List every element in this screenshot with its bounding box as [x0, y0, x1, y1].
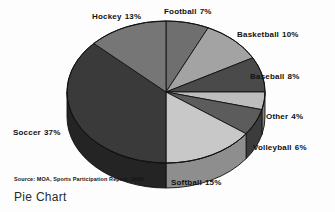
slice-label-football: Football7%	[164, 7, 212, 17]
slice-label-basketball-name: Basketball	[237, 30, 279, 39]
slice-label-softball: Softball15%	[171, 178, 222, 188]
slice-label-football-name: Football	[164, 7, 197, 16]
slice-label-basketball: Basketball10%	[237, 30, 299, 40]
slice-label-volleyball: Volleyball6%	[253, 143, 307, 153]
pie-top-slices	[67, 21, 265, 163]
figure-caption: Pie Chart	[14, 190, 67, 204]
slice-label-hockey-name: Hockey	[92, 12, 122, 21]
slice-label-soccer-name: Soccer	[13, 128, 41, 137]
slice-label-football-value: 7%	[200, 7, 212, 16]
slice-label-baseball-value: 8%	[288, 72, 300, 81]
slice-label-other-value: 4%	[291, 112, 303, 121]
slice-label-basketball-value: 10%	[282, 30, 299, 39]
slice-label-volleyball-name: Volleyball	[253, 143, 292, 152]
slice-label-other-name: Other	[266, 112, 288, 121]
slice-label-soccer: Soccer37%	[13, 128, 61, 138]
slice-label-baseball: Baseball8%	[250, 72, 299, 82]
slice-label-softball-value: 15%	[205, 178, 222, 187]
slice-label-soccer-value: 37%	[44, 128, 61, 137]
slice-label-hockey-value: 13%	[125, 12, 142, 21]
slice-label-other: Other4%	[266, 112, 303, 122]
slice-label-volleyball-value: 6%	[295, 143, 307, 152]
slice-label-softball-name: Softball	[171, 178, 202, 187]
slice-label-hockey: Hockey13%	[92, 12, 141, 22]
slice-label-baseball-name: Baseball	[250, 72, 285, 81]
source-note: Source: MOA, Sports Participation Report…	[14, 176, 145, 182]
pie-chart-figure: Hockey13% Football7% Basketball10% Baseb…	[0, 0, 335, 212]
